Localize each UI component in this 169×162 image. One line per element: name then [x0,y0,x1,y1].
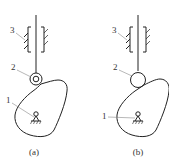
label-roller-a: 2 [11,63,16,72]
label-guide-b: 3 [112,26,117,35]
caption-a: (a) [29,148,39,157]
cam-a [15,80,67,137]
leader-3-a [16,33,25,40]
leader-3-b [118,33,127,40]
panel-b [108,15,169,137]
cam-mechanism-diagram [0,0,169,162]
caption-b: (b) [133,148,144,157]
panel-a [12,15,67,137]
roller-pin-a [33,76,39,82]
label-guide-a: 3 [10,26,15,35]
leader-2-b [119,70,132,76]
label-roller-b: 2 [113,63,118,72]
leader-2-a [17,70,31,77]
pivot-support-a [31,112,42,124]
cam-b [117,79,169,137]
leader-1-b [108,117,135,118]
roller-a [30,73,42,85]
label-cam-b: 1 [102,112,107,121]
label-cam-a: 1 [6,96,11,105]
